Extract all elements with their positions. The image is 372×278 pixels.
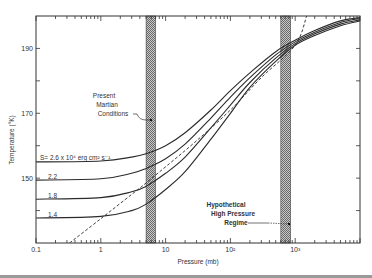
y-tick-label: 150	[21, 175, 33, 182]
x-tick-label: 10	[162, 246, 170, 253]
band-label-high-pressure: Regime	[224, 219, 248, 227]
dashed-reference-line	[70, 16, 307, 243]
curve-label: S= 2.6 x 10⁴ erg cm² s⁻¹	[40, 154, 111, 162]
x-tick-label: 10³	[290, 246, 301, 253]
x-tick-label: 0.1	[31, 246, 41, 253]
curves	[36, 16, 360, 243]
band-label-high-pressure: Hypothetical	[206, 201, 245, 209]
x-tick-label: 1	[99, 246, 103, 253]
x-tick-label: 10²	[225, 246, 236, 253]
curve-label: 1.4	[48, 211, 57, 218]
band-label-high-pressure: High Pressure	[211, 210, 255, 218]
band-label-present: Martian	[96, 101, 118, 108]
curve-s-1.4	[36, 21, 360, 218]
y-axis-title: Temperature (°K)	[8, 115, 16, 165]
curve-s-1.8	[36, 20, 360, 199]
curve-label: 2.2	[48, 173, 57, 180]
band-present-martian	[146, 16, 155, 243]
band-label-present: Conditions	[98, 110, 129, 117]
x-axis-title: Pressure (mb)	[177, 258, 218, 266]
band-label-present: Present	[93, 92, 116, 99]
curve-label: 1.8	[48, 192, 57, 199]
y-tick-label: 170	[21, 110, 33, 117]
y-tick-label: 190	[21, 45, 33, 52]
plot-frame	[36, 16, 360, 243]
curve-s-	[36, 18, 360, 162]
chart: 0.111010²10³150170190Pressure (mb)Temper…	[0, 0, 372, 278]
axis-ticks	[36, 16, 360, 243]
